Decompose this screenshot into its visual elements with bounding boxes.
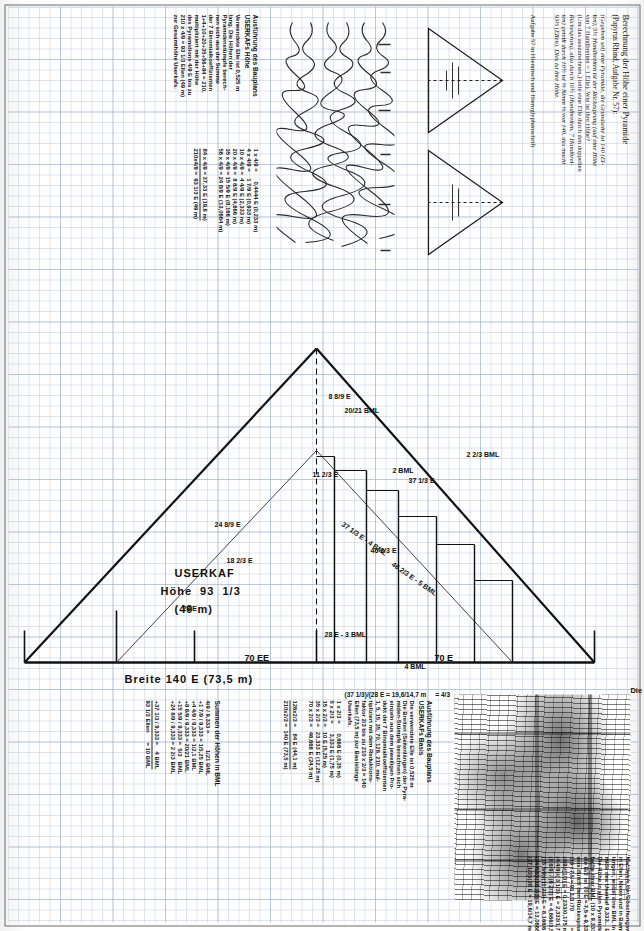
calc-row: 1 x 2/3 = 0,666 E (0,35 m) (334, 700, 341, 846)
figure-caption: Aufgabe 57 in Hieratisch und Hieroglyphe… (528, 14, 536, 314)
problem-line: (Gegeben sei) eine Pyramide, die Grundse… (598, 14, 606, 314)
inner-slope-lower (116, 450, 316, 662)
calc-row: 126x2/3 = 84 E (44,1 m) (289, 700, 297, 769)
col-hoehe-heading-2: USERKAFs Höhe (242, 14, 250, 138)
problem-line: von 7 Handbreiten = 1 Elle). Wie ist ihr… (583, 14, 591, 314)
col-hoehe-body-line: zur Gesamthöhe Userkafs. (171, 14, 178, 138)
col-hoehe: Ausführung des Bauplans USERKAFs Höhe Ve… (166, 14, 258, 138)
label-half-base-right: 70 E (434, 652, 453, 662)
diagram-slope-lower (24, 348, 316, 662)
col-hoehe-calc: 1 x 4/9 = 0,4444 E (0,233 m) 4 x 4/9 = 1… (191, 148, 258, 308)
col-hoehe-body-line: Verwendete Elle ist 0,525 m (234, 14, 241, 138)
col-basis-body-line: faktor 2/3 bis zu 210 x 2/3 = 140 (359, 700, 366, 846)
col-nachweis-line: (15 5/9)/(11 2/3) E = 8,166/6,125 m=4/3 (539, 856, 546, 931)
calc-row: 10 x 4/9 = 4 4/9 E (2,333 m) (237, 148, 244, 308)
col-basis-body-line: Ellen (73,5 m) zur Basislänge (352, 700, 359, 846)
col-summen: Summen der Höhen in BML 4/9 / 9,333 = 1/… (143, 700, 220, 860)
col-basis-body-line: dukt der 7 Binomialkoeffizienten (380, 700, 387, 846)
summen-row: +1 7/9 / 9,333 = 1/5,25 BML (196, 700, 203, 860)
col-basis-heading-2: USERKAFs Basis (416, 700, 424, 846)
label-base-width: Breite 140 E (73,5 m) (124, 672, 253, 684)
page-subtitle: (Papyrus Rhind, Aufgabe Nr. 57): (609, 14, 618, 314)
col-basis-body-line: Die verwendete Elle ist 0,525 m (408, 700, 415, 846)
page-title: Berechnung der Höhe einer Pyramide (620, 14, 630, 314)
col-summen-heading: Summen der Höhen in BML (212, 700, 220, 860)
summen-row: +4 4/9 / 9,333 = 1/2,1 BML (189, 700, 196, 860)
col-basis-body-line: miden-Stümpfe berechnen sich (394, 700, 401, 846)
col-nachweis-line: in Ellen, Meter und in Bambus-Ellen- (616, 856, 623, 931)
bml-mark: 20/21 BML (344, 406, 379, 413)
slope-note: (37 1/3)/(28 E = 19,6/14,7 m = 4/3 (344, 690, 450, 697)
col-nachweis-line: was durch den Rückesprung bestätigt wird… (574, 856, 581, 931)
bml-mark: 28 E - 3 BML (324, 630, 366, 637)
col-basis-body-line: Userkafs. (345, 700, 352, 846)
col-basis-body-line: 1, 5, 15, 35, 70, 126, 210, mul- (373, 700, 380, 846)
summen-row: +24 8/9 / 9,333 = 2 2/3 BML (168, 700, 175, 860)
col-basis-body-line: Die Breiten (Seitenlängen) der Pyra- (401, 700, 408, 846)
summen-row: +8 8/9 / 9,333 = 20/21 BML (182, 700, 189, 860)
pyramid-diagram (8, 330, 634, 702)
calc-row: 35 x 2/3 = 23,333 E (12,25 m) (313, 700, 320, 846)
calc-row: 5 x 2/3 = 3,333 E (1,75 m) (327, 700, 334, 846)
col-nachweis-line: (4/9)/(1/3) E = 0,233/0,175 m = 4/3 = (560, 856, 567, 931)
diagram-slope-upper (316, 348, 594, 662)
problem-line: (Um das auszurechnen,) teile eine Elle d… (575, 14, 583, 314)
col-nachweis: Nachweis der Böschungswinkel-Konstanz in… (525, 856, 630, 931)
col-hoehe-heading-1: Ausführung des Bauplans (250, 14, 258, 138)
summen-row: +15 5/9 / 9,333 = 5/3 BML (175, 700, 182, 860)
calc-row: 4 x 4/9 = 1 7/9 E (0,933 m) (244, 148, 251, 308)
col-nachweis-line: die B/2 ist 70 E = 7,5 x 9,333 = 70 E, (581, 856, 588, 931)
bml-mark: 8 8/9 E (328, 392, 350, 399)
calc-row: 84 x 4/9 = 37,33 E (19,6 m) (199, 148, 207, 220)
col-hoehe-body-line: der 7 Binomialkoeffizienten (206, 14, 213, 138)
rotated-sheet: Die Aufgaben 56 bis 60 des Papyrus Rhind… (0, 0, 644, 931)
col-hoehe-body-line: des Pyramidions 4/9 E bis zu (185, 14, 192, 138)
col-nachweis-line: längen, wobei eine BML in der Pyra- (609, 856, 616, 931)
col-nachweis-heading: Nachweis der Böschungswinkel-Konstanz (623, 856, 630, 931)
col-hoehe-body-line: 1+4+10+20+35+56+84 = 210, (199, 14, 206, 138)
height-mark: 18 2/3 E (226, 556, 252, 563)
label-height: Höhe 93 1/3 (160, 584, 240, 596)
col-basis: Ausführung des Bauplans USERKAFs Basis D… (281, 700, 432, 846)
col-nachweis-line: (4 4/9)/( 3 1/3) E = 2,333/1,75 m=4/3 = (553, 856, 560, 931)
height-mark: 11 2/3 E (312, 470, 338, 477)
problem-line: 93⅓ (Ellen). Dies ist ihre Höhe. (552, 14, 560, 314)
col-hoehe-body-line: 210 x 4/9 = 93 1/3 Ellen (49 m) (178, 14, 185, 138)
col-basis-body-line: tipliziert mit dem Reduktions- (366, 700, 373, 846)
col-hoehe-body-line: multipliziert mit der Höhe (192, 14, 199, 138)
calc-row-total: 210x4/9 = 93 1/3 E (49 m) (191, 148, 198, 308)
col-nachweis-line: (24 8/9)/(18 2/3) E = 13,0666/9,8 m = 4/… (532, 856, 539, 931)
summen-row: +37 1/3 / 9,333 = 4 BML (151, 700, 159, 769)
height-mark: 37 1/3 E (408, 476, 434, 483)
problem-line: Rückesprung, also durch 10½ (Handbreiten… (567, 14, 575, 314)
calc-row: 35 x 4/9 = 15 5/9 E (8,166 m) (223, 148, 230, 308)
calc-row: 15 x 2/3 = 10 E (5,25 m) (320, 700, 327, 846)
summen-row-total: 93 1/3 Ellen = 10 BML (143, 700, 150, 860)
calc-row: 70 x 2/3 = 46,666 E (24,5 m) (306, 700, 313, 846)
label-half-base-left: 70 EE (244, 652, 269, 662)
height-mark: 24 8/9 E (214, 520, 240, 527)
col-nachweis-line: (8 8/9) / (6 2/3) E = 4,666/3,5 m = 4/3 … (546, 856, 553, 931)
col-basis-body-line: einzeln aus dem jeweiligen Pro- (387, 700, 394, 846)
label-userkaf: USERKAF (174, 566, 234, 578)
col-basis-heading-1: Ausführung des Bauplans (424, 700, 432, 846)
col-hoehe-body-line: lang. Die Höhen der (227, 14, 234, 138)
summen-row: 4/9 / 9,333 = 1/21 BML (203, 700, 210, 860)
bml-mark: 2 2/3 BML (466, 450, 499, 457)
scanned-page: Die Aufgaben 56 bis 60 des Papyrus Rhind… (0, 0, 644, 931)
calc-row: 56 x 4/9 = 24 8/9 E (13,0664 m) (216, 148, 223, 308)
problem-line: ten) geteilt durch 10½ ist ⅔ Nimm ⅓ von … (560, 14, 568, 314)
hieratic-script-block (276, 14, 394, 314)
bml-mark: 2 BML (392, 466, 413, 473)
col-nachweis-line: fache ihrer BML (10 x 9,333 E = 93 1/3 E… (588, 856, 595, 931)
col-nachweis-line: (10 / 7,5 = 93 1/3 /70 = 4/3). (567, 856, 574, 931)
col-hoehe-body-line: Pyramidenstümpfe berech- (220, 14, 227, 138)
calc-row-total: 210x2/3 = 140 E (73,5 m) (281, 700, 288, 846)
calc-row: 20 x 4/9 = 8 8/9 E (4,666 m) (230, 148, 237, 308)
col-nachweis-line: Die Höhe in allen Pyramiden ist das Zehn… (595, 856, 602, 931)
height-mark: 28 E (182, 604, 196, 611)
col-hoehe-body-line: nen sich aus der Summe (213, 14, 220, 138)
bml-mark: 4 BML (404, 662, 425, 669)
calc-row: 1 x 4/9 = 0,4444 E (0,233 m) (251, 148, 258, 308)
title-block: Berechnung der Höhe einer Pyramide (Papy… (528, 14, 630, 314)
